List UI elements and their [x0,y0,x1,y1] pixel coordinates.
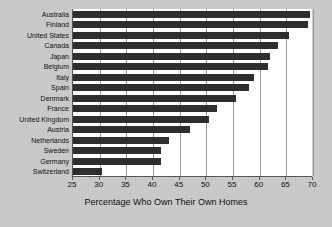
x-tick-mark [205,177,206,180]
bar [73,137,169,144]
x-tick-mark [179,177,180,180]
category-label: Belgium [0,63,69,70]
x-tick-mark [125,177,126,180]
bar [73,116,209,123]
x-axis-title: Percentage Who Own Their Own Homes [0,197,332,208]
category-label: Spain [0,84,69,91]
category-label: Finland [0,21,69,28]
x-tick-mark [285,177,286,180]
bar-fill [73,11,310,18]
x-tick-mark [259,177,260,180]
x-tick-label: 55 [228,180,237,189]
bar-fill [73,105,217,112]
x-tick-label: 35 [121,180,130,189]
bar-fill [73,116,209,123]
bar-fill [73,95,236,102]
gridline [313,9,314,176]
bar [73,21,308,28]
category-label: United States [0,32,69,39]
category-label: Australia [0,11,69,18]
category-axis-labels: AustraliaFinlandUnited StatesCanadaJapan… [0,9,69,177]
bar-fill [73,147,161,154]
category-label: Switzerland [0,168,69,175]
bar-chart: AustraliaFinlandUnited StatesCanadaJapan… [0,0,332,227]
x-tick-mark [72,177,73,180]
x-tick-label: 25 [68,180,77,189]
bar [73,11,310,18]
category-label: Canada [0,42,69,49]
bar-fill [73,42,278,49]
bar [73,147,161,154]
bar [73,95,236,102]
bar-fill [73,74,254,81]
bar-fill [73,137,169,144]
bar-fill [73,84,249,91]
x-axis-tick-labels: 25303540455055606570 [72,180,312,192]
category-label: Denmark [0,95,69,102]
x-tick-label: 45 [174,180,183,189]
category-label: Sweden [0,147,69,154]
bar [73,158,161,165]
x-tick-label: 40 [148,180,157,189]
category-label: France [0,105,69,112]
x-tick-label: 50 [201,180,210,189]
bar [73,32,289,39]
bar [73,168,102,175]
x-tick-mark [152,177,153,180]
bar-fill [73,32,289,39]
category-label: United Kingdom [0,116,69,123]
bar-fill [73,168,102,175]
x-tick-mark [99,177,100,180]
x-tick-mark [312,177,313,180]
bar [73,42,278,49]
bar-fill [73,126,190,133]
x-tick-mark [232,177,233,180]
category-label: Germany [0,158,69,165]
bar [73,53,270,60]
bar [73,105,217,112]
x-tick-label: 70 [308,180,317,189]
plot-area [72,9,312,177]
category-label: Austria [0,126,69,133]
category-label: Netherlands [0,137,69,144]
bar-fill [73,158,161,165]
bar [73,84,249,91]
bar [73,74,254,81]
bar [73,126,190,133]
bar-fill [73,53,270,60]
bar-fill [73,21,308,28]
bar-series [73,9,312,176]
category-label: Japan [0,53,69,60]
x-tick-label: 65 [281,180,290,189]
bar-fill [73,63,268,70]
x-tick-label: 60 [254,180,263,189]
category-label: Italy [0,74,69,81]
x-tick-label: 30 [94,180,103,189]
bar [73,63,268,70]
